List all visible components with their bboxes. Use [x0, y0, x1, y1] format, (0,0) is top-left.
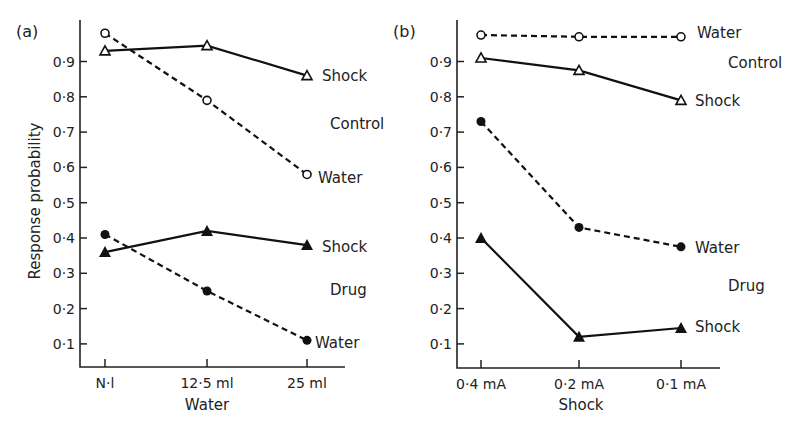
panel-a-series [99, 29, 313, 345]
panel-b-control-label: Control [728, 54, 782, 72]
filled-circle-marker-icon [101, 230, 110, 239]
y-tick-label: 0·8 [430, 89, 452, 105]
panel-b-y-ticks: 0·10·20·30·40·50·60·70·80·9 [430, 54, 464, 352]
series-drug-shock [99, 225, 313, 257]
panel-a: (a) 0·10·20·30·40·50·60·70·80·9 N·l12·5 … [16, 20, 384, 414]
panel-b-drug-shock-label: Shock [695, 318, 740, 336]
panel-b-drug-water-label: Water [695, 239, 740, 257]
panel-a-drug-label: Drug [330, 281, 367, 299]
y-tick-label: 0·7 [430, 124, 452, 140]
y-tick-label: 0·9 [430, 54, 452, 70]
x-tick-label: 0·1 mA [656, 376, 706, 392]
y-tick-label: 0·9 [53, 54, 75, 70]
panel-a-control-water-label: Water [318, 169, 363, 187]
filled-circle-marker-icon [677, 242, 686, 251]
panel-b-control-shock-label: Shock [695, 92, 740, 110]
filled-circle-marker-icon [477, 117, 486, 126]
panel-a-y-ticks: 0·10·20·30·40·50·60·70·80·9 [53, 54, 87, 352]
y-tick-label: 0·4 [430, 230, 452, 246]
y-tick-label: 0·2 [430, 301, 452, 317]
y-tick-label: 0·7 [53, 124, 75, 140]
figure: Response probability (a) 0·10·20·30·40·5… [0, 0, 809, 425]
filled-circle-marker-icon [303, 336, 312, 345]
y-tick-label: 0·2 [53, 301, 75, 317]
series-drug-water [477, 117, 686, 251]
filled-triangle-marker-icon [475, 232, 487, 243]
panel-a-control-shock-label: Shock [322, 67, 367, 85]
y-tick-label: 0·6 [53, 159, 75, 175]
open-circle-marker-icon [677, 33, 685, 41]
filled-circle-marker-icon [575, 223, 584, 232]
panel-b-x-ticks: 0·4 mA0·2 mA0·1 mA [456, 360, 706, 392]
x-tick-label: 0·4 mA [456, 376, 506, 392]
panel-b-x-title: Shock [558, 396, 603, 414]
series-control-water [101, 29, 311, 178]
panel-b: (b) 0·10·20·30·40·50·60·70·80·9 0·4 mA0·… [393, 20, 782, 414]
series-control-shock [476, 53, 686, 104]
open-circle-marker-icon [101, 29, 109, 37]
y-tick-label: 0·5 [53, 195, 75, 211]
y-tick-label: 0·4 [53, 230, 75, 246]
x-tick-label: 25 ml [287, 375, 327, 391]
panel-a-control-label: Control [330, 115, 384, 133]
series-control-shock [100, 41, 312, 80]
panel-b-control-water-label: Water [697, 24, 742, 42]
y-tick-label: 0·1 [53, 336, 75, 352]
panel-a-x-ticks: N·l12·5 ml25 ml [96, 359, 327, 391]
panel-b-series [475, 31, 687, 342]
series-line [481, 58, 681, 100]
open-circle-marker-icon [203, 96, 211, 104]
y-axis-title: Response probability [26, 122, 44, 279]
panel-a-drug-water-label: Water [315, 334, 360, 352]
open-circle-marker-icon [477, 31, 485, 39]
panel-a-x-title: Water [185, 396, 230, 414]
series-line [481, 238, 681, 337]
y-tick-label: 0·5 [430, 195, 452, 211]
x-tick-label: 0·2 mA [554, 376, 604, 392]
panel-a-label: (a) [16, 22, 38, 41]
y-tick-label: 0·3 [53, 265, 75, 281]
open-circle-marker-icon [575, 33, 583, 41]
panel-a-axes [80, 20, 345, 367]
y-tick-label: 0·6 [430, 159, 452, 175]
series-drug-shock [475, 232, 687, 342]
series-control-water [477, 31, 685, 41]
filled-circle-marker-icon [203, 286, 212, 295]
y-tick-label: 0·8 [53, 89, 75, 105]
open-circle-marker-icon [303, 170, 311, 178]
panel-b-drug-label: Drug [728, 277, 765, 295]
y-tick-label: 0·1 [430, 336, 452, 352]
panel-b-label: (b) [393, 22, 416, 41]
x-tick-label: N·l [96, 375, 115, 391]
x-tick-label: 12·5 ml [180, 375, 233, 391]
y-tick-label: 0·3 [430, 265, 452, 281]
panel-a-drug-shock-label: Shock [322, 238, 367, 256]
